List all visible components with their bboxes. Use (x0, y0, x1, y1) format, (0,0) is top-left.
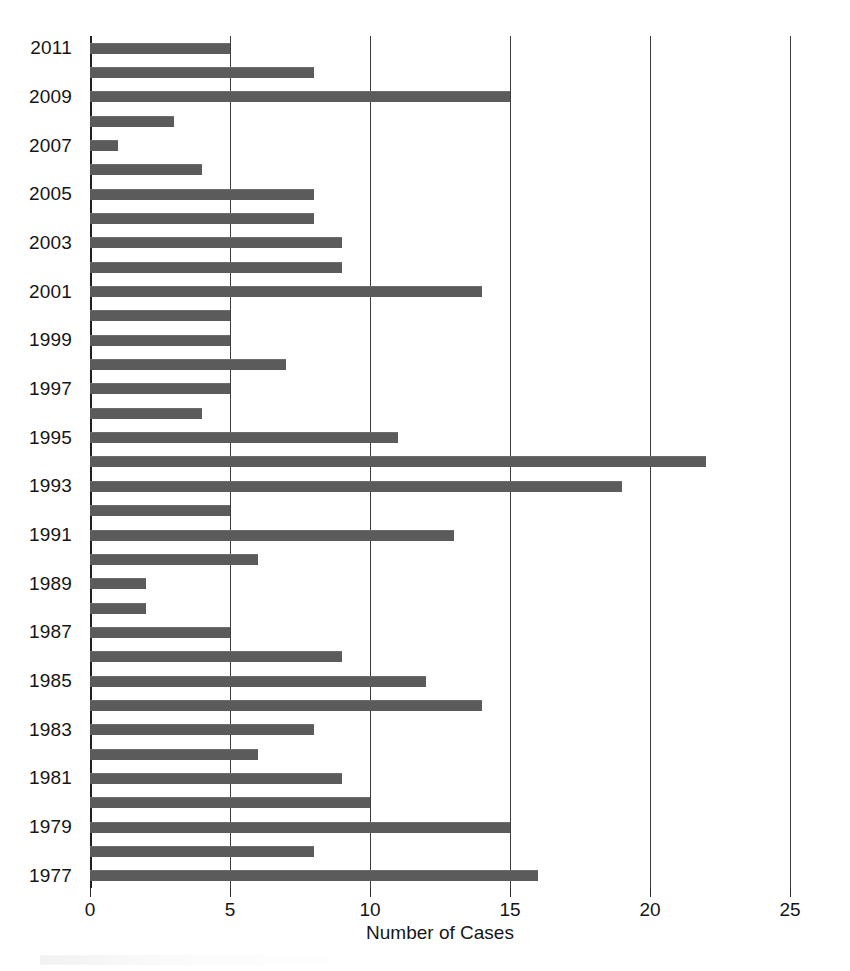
y-tick-label-1995: 1995 (29, 428, 72, 447)
bar-row (90, 839, 790, 863)
bar-row (90, 474, 790, 498)
y-tick-label-2001: 2001 (29, 282, 72, 301)
bar-row (90, 377, 790, 401)
bar-1985 (90, 676, 426, 687)
bar-row (90, 499, 790, 523)
bar-row (90, 547, 790, 571)
bar-2011 (90, 43, 230, 54)
bar-1996 (90, 408, 202, 419)
bar-1992 (90, 505, 230, 516)
bar-row (90, 620, 790, 644)
bar-1993 (90, 481, 622, 492)
bar-row (90, 60, 790, 84)
bar-2001 (90, 286, 482, 297)
bar-row (90, 742, 790, 766)
bar-1997 (90, 383, 230, 394)
bar-row (90, 352, 790, 376)
bar-1989 (90, 578, 146, 589)
bar-1999 (90, 335, 230, 346)
x-tick-label: 25 (779, 900, 800, 920)
y-tick-label-1977: 1977 (29, 866, 72, 885)
x-tick-0 (90, 888, 91, 897)
x-tick-label: 0 (85, 900, 96, 920)
bar-1990 (90, 554, 258, 565)
bar-1986 (90, 651, 342, 662)
bar-row (90, 304, 790, 328)
bar-1978 (90, 846, 314, 857)
bar-row (90, 815, 790, 839)
y-tick-label-1979: 1979 (29, 817, 72, 836)
bar-row (90, 158, 790, 182)
x-tick-10 (370, 888, 371, 897)
bar-row (90, 693, 790, 717)
bar-row (90, 85, 790, 109)
bar-row (90, 425, 790, 449)
bar-2008 (90, 116, 174, 127)
y-tick-label-2005: 2005 (29, 184, 72, 203)
y-tick-label-2009: 2009 (29, 87, 72, 106)
bar-1991 (90, 530, 454, 541)
bar-row (90, 596, 790, 620)
x-tick-label: 10 (359, 900, 380, 920)
y-tick-label-1991: 1991 (29, 525, 72, 544)
bar-chart-figure: 2011200920072005200320011999199719951993… (0, 0, 850, 971)
bar-1998 (90, 359, 286, 370)
bar-row (90, 109, 790, 133)
bar-series (90, 36, 790, 888)
bar-row (90, 669, 790, 693)
bar-1977 (90, 870, 538, 881)
bar-row (90, 523, 790, 547)
bar-row (90, 645, 790, 669)
bar-1982 (90, 749, 258, 760)
bar-row (90, 328, 790, 352)
bar-1979 (90, 822, 510, 833)
bar-row (90, 231, 790, 255)
y-tick-label-1983: 1983 (29, 720, 72, 739)
bar-row (90, 450, 790, 474)
bar-2006 (90, 164, 202, 175)
bar-1983 (90, 724, 314, 735)
bar-1984 (90, 700, 482, 711)
bar-row (90, 766, 790, 790)
bar-row (90, 206, 790, 230)
bar-1988 (90, 603, 146, 614)
y-tick-label-2003: 2003 (29, 233, 72, 252)
scan-artifact (40, 955, 360, 965)
bar-row (90, 401, 790, 425)
x-tick-20 (650, 888, 651, 897)
y-tick-label-2011: 2011 (30, 38, 72, 57)
y-tick-label-1981: 1981 (29, 768, 72, 787)
bar-row (90, 572, 790, 596)
bar-row (90, 864, 790, 888)
bar-2009 (90, 91, 510, 102)
y-axis: 2011200920072005200320011999199719951993… (0, 36, 82, 888)
y-tick-label-1993: 1993 (29, 476, 72, 495)
bar-2002 (90, 262, 342, 273)
y-tick-label-2007: 2007 (29, 136, 72, 155)
x-tick-15 (510, 888, 511, 897)
bar-1987 (90, 627, 230, 638)
bar-row (90, 718, 790, 742)
y-tick-label-1997: 1997 (29, 379, 72, 398)
bar-row (90, 36, 790, 60)
bar-2004 (90, 213, 314, 224)
y-tick-label-1987: 1987 (29, 622, 72, 641)
bar-row (90, 182, 790, 206)
bar-1981 (90, 773, 342, 784)
bar-row (90, 279, 790, 303)
bar-row (90, 255, 790, 279)
bar-2010 (90, 67, 314, 78)
bar-1995 (90, 432, 398, 443)
bar-2007 (90, 140, 118, 151)
bar-1980 (90, 797, 370, 808)
x-tick-label: 20 (639, 900, 660, 920)
bar-1994 (90, 456, 706, 467)
x-tick-label: 15 (499, 900, 520, 920)
x-tick-5 (230, 888, 231, 897)
plot-area (90, 36, 790, 888)
x-tick-25 (790, 888, 791, 897)
x-axis-title: Number of Cases (90, 922, 790, 944)
bar-2003 (90, 237, 342, 248)
y-tick-label-1989: 1989 (29, 574, 72, 593)
bar-row (90, 133, 790, 157)
